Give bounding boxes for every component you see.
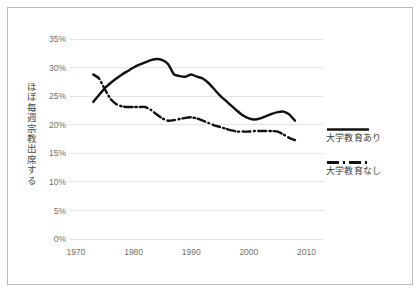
series-group: [93, 59, 295, 140]
y-axis-tick-labels: 0%5%10%15%20%25%30%35%: [49, 34, 66, 244]
x-axis-tick-labels: 19701980199020002010: [67, 247, 317, 257]
series-line-college: [93, 59, 295, 121]
y-axis-tick-label: 5%: [54, 206, 67, 216]
y-axis-tick-label: 30%: [49, 63, 66, 73]
y-axis-tick-label: 20%: [49, 120, 66, 130]
x-axis-tick-label: 1990: [182, 247, 201, 257]
y-axis-tick-label: 25%: [49, 91, 66, 101]
legend-label-nocollege: 大学教育なし: [326, 164, 410, 177]
legend-swatch-solid: [326, 120, 410, 129]
x-axis-tick-label: 2010: [297, 247, 316, 257]
y-axis-tick-label: 15%: [49, 148, 66, 158]
series-line-nocollege: [93, 74, 295, 140]
y-axis-tick-label: 10%: [49, 177, 66, 187]
chart-frame: ほぼ毎週宗教出席する 0%5%10%15%20%25%30%35% 197019…: [7, 7, 413, 285]
legend-label-college: 大学教育あり: [326, 131, 410, 144]
x-axis-tick-label: 1970: [67, 247, 86, 257]
x-axis-tick-label: 2000: [239, 247, 258, 257]
y-axis-tick-label: 35%: [49, 34, 66, 44]
gridlines-group: [70, 39, 323, 239]
x-axis-tick-label: 1980: [124, 247, 143, 257]
chart-legend: 大学教育あり 大学教育なし: [326, 120, 410, 186]
legend-swatch-dashdot: [326, 153, 410, 162]
y-axis-tick-label: 0%: [54, 234, 67, 244]
legend-entry-nocollege: 大学教育なし: [326, 153, 410, 177]
legend-entry-college: 大学教育あり: [326, 120, 410, 144]
